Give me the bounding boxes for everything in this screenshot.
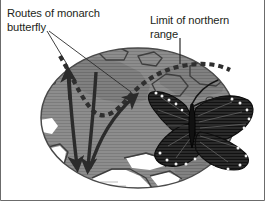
monarch-migration-figure: Routes of monarch butterfly Limit of nor… <box>0 0 265 201</box>
routes-label-line2: butterfly <box>7 21 46 33</box>
routes-label-line1: Routes of monarch <box>7 7 100 19</box>
limit-label-line2: range <box>150 28 178 40</box>
label-limit-of-northern-range: Limit of northern range <box>150 14 229 40</box>
label-routes-of-monarch-butterfly: Routes of monarch butterfly <box>7 7 100 33</box>
limit-label-line1: Limit of northern <box>150 14 229 26</box>
migration-diagram-svg: Routes of monarch butterfly Limit of nor… <box>0 0 265 201</box>
leader-routes-left <box>47 31 68 66</box>
gulf-void-west <box>62 176 86 192</box>
pacific-ocean-void-lower <box>42 164 64 190</box>
